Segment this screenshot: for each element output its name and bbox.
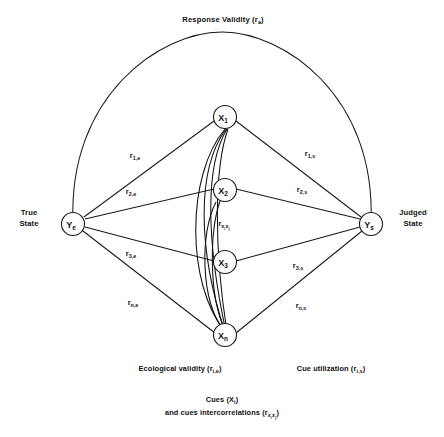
edge-x1-ys	[236, 121, 361, 217]
intercorrelation-label: rxixj	[218, 219, 229, 231]
ecological-validity-caption: Ecological validity (ri,e)	[139, 364, 222, 374]
judged-state-caption-line1: Judged	[399, 208, 427, 217]
intercorrelation-curve-x2-xn	[217, 129, 228, 332]
edge-ye-x1	[84, 121, 214, 217]
edge-label-r3s: r3,s	[293, 261, 303, 271]
edge-label-r2s: r2,s	[297, 185, 307, 195]
judged-state-caption-line2: State	[403, 219, 422, 228]
cues-caption-line2: and cues intercorrelations (rxixj)	[165, 408, 279, 420]
lens-model-figure: Ye True State Ys Judged State X1 X2 X3 X…	[0, 0, 444, 437]
true-state-caption-line1: True	[21, 208, 37, 217]
edge-label-r1s: r1,s	[305, 149, 315, 159]
cue-utilization-caption: Cue utilization (ri,s)	[297, 364, 366, 374]
edge-label-rns: rn,s	[296, 301, 307, 311]
cues-caption-line1: Cues (Xi)	[206, 395, 239, 405]
edge-xn-ys	[236, 231, 362, 333]
diagram-canvas: Ye True State Ys Judged State X1 X2 X3 X…	[0, 0, 444, 437]
edge-label-r1e: r1,e	[130, 151, 140, 161]
edge-label-r2e: r2,e	[126, 187, 136, 197]
true-state-caption-line2: State	[19, 219, 38, 228]
edge-label-rne: rn,e	[128, 298, 139, 308]
edge-ye-x2	[85, 189, 214, 219]
edge-x3-ys	[236, 227, 360, 261]
edge-ye-xn	[83, 231, 215, 333]
edge-ye-x3	[85, 227, 214, 261]
edge-label-r3e: r3,e	[126, 249, 136, 259]
response-validity-label: Response Validity (ra)	[182, 15, 264, 25]
